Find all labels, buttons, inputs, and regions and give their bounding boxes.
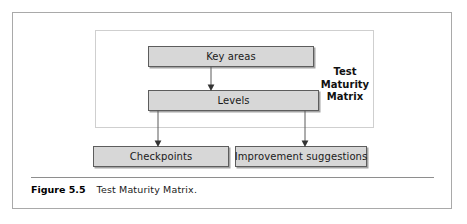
group-label-line-1: Test: [318, 66, 372, 79]
node-levels-label: Levels: [217, 96, 249, 106]
figure-caption-text: Test Maturity Matrix.: [97, 184, 197, 195]
caption-divider: [31, 177, 434, 178]
arrow-levels-to-improvement-suggestions: [298, 110, 312, 147]
group-label-line-3: Matrix: [318, 91, 372, 104]
node-improvement-suggestions-label: Improvement suggestions: [235, 152, 368, 162]
arrow-levels-to-checkpoints: [151, 110, 165, 147]
arrow-key-areas-to-levels: [205, 66, 217, 91]
figure-caption: Figure 5.5Test Maturity Matrix.: [31, 184, 197, 195]
node-checkpoints: Checkpoints: [93, 146, 229, 167]
node-key-areas-label: Key areas: [206, 52, 256, 62]
group-label-line-2: Maturity: [318, 79, 372, 92]
node-improvement-suggestions: Improvement suggestions: [235, 146, 367, 167]
node-levels: Levels: [148, 90, 319, 111]
figure-caption-number: Figure 5.5: [31, 184, 86, 195]
group-label-test-maturity-matrix: Test Maturity Matrix: [318, 66, 372, 104]
node-key-areas: Key areas: [148, 46, 314, 67]
node-checkpoints-label: Checkpoints: [130, 152, 193, 162]
figure-container: Key areas Levels Checkpoints Improvement…: [0, 0, 467, 224]
